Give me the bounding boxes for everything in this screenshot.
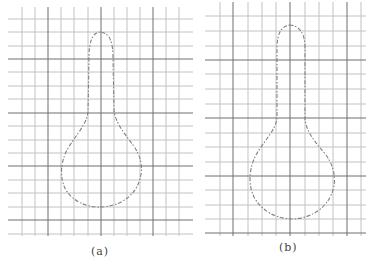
grid-b [205,2,366,236]
caption-b: (b) [279,241,298,254]
figure-canvas [0,0,368,263]
grid-a-major [8,7,193,236]
caption-a: (a) [91,245,109,258]
grid-b-major [205,2,366,236]
